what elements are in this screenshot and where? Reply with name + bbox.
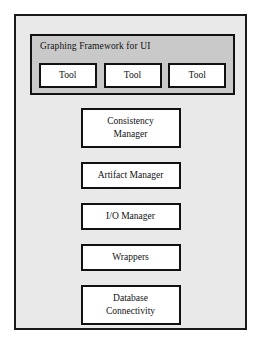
component-box-consistency-manager[interactable]: Consistency Manager: [81, 108, 181, 148]
tool-row: Tool Tool Tool: [32, 60, 233, 90]
tool-box-2-label: Tool: [124, 70, 141, 80]
component-box-io-manager[interactable]: I/O Manager: [81, 203, 181, 230]
component-box-wrappers-label: Wrappers: [112, 251, 149, 264]
component-box-io-manager-label: I/O Manager: [106, 210, 155, 223]
framework-panel-title: Graphing Framework for UI: [40, 40, 150, 52]
tool-box-3-label: Tool: [189, 70, 206, 80]
component-box-database-connectivity-line-1: Database: [113, 292, 148, 305]
tool-box-1-label: Tool: [59, 70, 76, 80]
component-box-wrappers[interactable]: Wrappers: [81, 244, 181, 271]
component-box-artifact-manager[interactable]: Artifact Manager: [81, 162, 181, 189]
component-box-consistency-manager-line-1: Consistency: [107, 115, 153, 128]
graphing-framework-panel: Graphing Framework for UI Tool Tool Tool: [30, 34, 235, 95]
tool-box-1[interactable]: Tool: [39, 63, 97, 88]
component-box-consistency-manager-line-2: Manager: [114, 128, 148, 141]
architecture-diagram: Graphing Framework for UI Tool Tool Tool…: [0, 0, 263, 344]
tool-box-2[interactable]: Tool: [104, 63, 162, 88]
system-container: Graphing Framework for UI Tool Tool Tool…: [14, 14, 247, 330]
component-box-artifact-manager-label: Artifact Manager: [98, 169, 164, 182]
tool-box-3[interactable]: Tool: [168, 63, 226, 88]
component-box-database-connectivity-line-2: Connectivity: [106, 305, 155, 318]
component-box-database-connectivity[interactable]: Database Connectivity: [81, 285, 181, 325]
